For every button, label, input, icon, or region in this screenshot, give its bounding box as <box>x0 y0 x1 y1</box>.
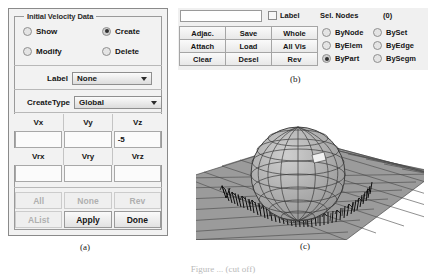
radio-bynode-icon <box>322 28 331 37</box>
radio-bysegm[interactable]: BySegm <box>373 52 428 65</box>
label-checkbox-label: Label <box>280 11 300 20</box>
radio-bynode-label: ByNode <box>335 28 363 37</box>
header-vrz: Vrz <box>113 148 162 165</box>
radio-byset-label: BySet <box>386 28 407 37</box>
all-vis-button[interactable]: All Vis <box>272 40 318 53</box>
input-vrx[interactable] <box>15 165 62 182</box>
velocity-table: Vx Vy Vz -5 Vrx Vry Vrz <box>14 114 162 182</box>
fem-3d-viewport[interactable] <box>196 100 424 240</box>
selection-text-input[interactable] <box>180 10 262 22</box>
selection-button-row: Attach Load All Vis <box>180 40 318 53</box>
selection-button-row: Adjac. Save Whole <box>180 27 318 40</box>
label-checkbox-wrap[interactable]: Label <box>268 11 300 20</box>
radio-bypart-icon <box>322 54 331 63</box>
load-button[interactable]: Load <box>226 40 272 53</box>
velocity-header-row: Vx Vy Vz <box>14 114 162 131</box>
radio-byelem[interactable]: ByElem <box>322 39 373 52</box>
all-button[interactable]: All <box>15 192 62 209</box>
input-vx[interactable] <box>15 131 62 148</box>
figure-caption-cropped: Figure ... (cut off) <box>118 264 328 275</box>
header-vry: Vry <box>64 148 114 165</box>
radio-byelem-icon <box>322 41 331 50</box>
header-vrx: Vrx <box>14 148 64 165</box>
createtype-dropdown[interactable]: Global <box>74 96 162 109</box>
done-button[interactable]: Done <box>114 211 161 228</box>
radio-byedge-icon <box>373 41 382 50</box>
createtype-field-row: CreateType Global <box>14 95 162 110</box>
radio-byelem-label: ByElem <box>335 41 363 50</box>
clear-button[interactable]: Clear <box>180 53 226 66</box>
select-mode-radio-group: ByNode BySet ByElem ByEdge ByPart <box>322 26 428 65</box>
chevron-down-icon <box>141 77 147 81</box>
input-vrz[interactable] <box>114 165 161 182</box>
selection-toolbar-panel: Label Sel. Nodes (0) Adjac. Save Whole A… <box>178 8 428 70</box>
sel-nodes-label: Sel. Nodes <box>320 11 358 20</box>
radio-show[interactable]: Show <box>15 27 88 36</box>
group-title: Initial Velocity Data <box>24 12 96 21</box>
label-field-row: Label None <box>14 71 162 86</box>
input-vz[interactable]: -5 <box>114 131 161 148</box>
input-vry[interactable] <box>64 165 111 182</box>
radio-show-icon <box>23 27 32 36</box>
desel-button[interactable]: Desel <box>226 53 272 66</box>
radio-delete[interactable]: Delete <box>88 47 161 56</box>
attach-button[interactable]: Attach <box>180 40 226 53</box>
selection-button-grid: Adjac. Save Whole Attach Load All Vis Cl… <box>179 26 318 66</box>
rev-button[interactable]: Rev <box>272 53 318 66</box>
createtype-dropdown-value: Global <box>75 98 104 107</box>
radio-delete-label: Delete <box>115 47 139 56</box>
radio-show-label: Show <box>36 27 57 36</box>
mode-radio-group: Show Create Modify Delete <box>15 21 161 61</box>
rev-button[interactable]: Rev <box>114 192 161 209</box>
divider-3 <box>14 112 162 113</box>
caption-a: (a) <box>80 242 90 252</box>
alist-button[interactable]: AList <box>15 211 62 228</box>
label-field-label: Label <box>14 74 72 83</box>
selection-button-row: Clear Desel Rev <box>180 53 318 66</box>
velocity-input-row: -5 <box>14 131 162 148</box>
label-dropdown-value: None <box>73 74 97 83</box>
label-checkbox-icon <box>268 11 277 20</box>
radio-create-label: Create <box>115 27 140 36</box>
rotation-input-row <box>14 165 162 182</box>
chevron-down-icon <box>151 101 157 105</box>
save-button[interactable]: Save <box>226 27 272 40</box>
radio-bysegm-label: BySegm <box>386 54 416 63</box>
initial-velocity-data-dialog: Initial Velocity Data Show Create Modify… <box>8 8 168 236</box>
sel-nodes-count: (0) <box>383 11 392 20</box>
whole-button[interactable]: Whole <box>272 27 318 40</box>
radio-byset[interactable]: BySet <box>373 26 428 39</box>
createtype-field-label: CreateType <box>14 98 74 107</box>
rotation-header-row: Vrx Vry Vrz <box>14 148 162 165</box>
radio-modify[interactable]: Modify <box>15 47 88 56</box>
divider-2 <box>14 89 162 90</box>
fem-scene <box>196 100 424 240</box>
radio-bypart[interactable]: ByPart <box>322 52 373 65</box>
radio-bypart-label: ByPart <box>335 54 359 63</box>
apply-button[interactable]: Apply <box>64 211 111 228</box>
header-vx: Vx <box>14 114 64 131</box>
radio-modify-icon <box>23 47 32 56</box>
divider-4 <box>14 187 162 188</box>
radio-create[interactable]: Create <box>88 27 161 36</box>
radio-delete-icon <box>102 47 111 56</box>
adjac-button[interactable]: Adjac. <box>180 27 226 40</box>
selection-top-row: Label Sel. Nodes (0) <box>178 10 428 23</box>
radio-byedge-label: ByEdge <box>386 41 414 50</box>
none-button[interactable]: None <box>64 192 111 209</box>
divider-1 <box>14 65 162 66</box>
header-vy: Vy <box>64 114 114 131</box>
radio-bysegm-icon <box>373 54 382 63</box>
header-vz: Vz <box>113 114 162 131</box>
radio-byset-icon <box>373 28 382 37</box>
caption-b: (b) <box>290 74 301 84</box>
radio-create-icon <box>102 27 111 36</box>
action-button-grid: All None Rev AList Apply Done <box>14 191 162 229</box>
radio-modify-label: Modify <box>36 47 62 56</box>
label-dropdown[interactable]: None <box>72 72 152 85</box>
input-vy[interactable] <box>64 131 111 148</box>
radio-bynode[interactable]: ByNode <box>322 26 373 39</box>
radio-byedge[interactable]: ByEdge <box>373 39 428 52</box>
caption-c: (c) <box>300 241 310 251</box>
